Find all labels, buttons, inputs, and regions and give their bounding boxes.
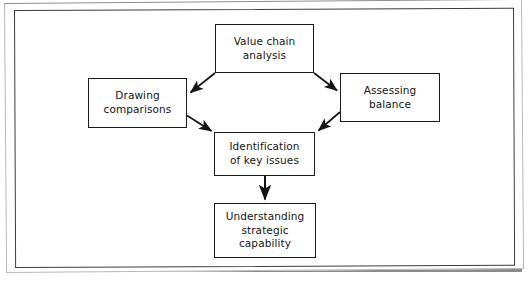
node-drawing-comparisons: Drawing comparisons xyxy=(88,78,187,128)
node-drawing-comparisons-label: Drawing comparisons xyxy=(101,89,175,117)
node-understanding-strategic-capability-label: Understanding strategic capability xyxy=(223,210,308,252)
node-identification-of-key-issues-label: Identification of key issues xyxy=(226,140,302,168)
arrow-value-chain-to-assessing xyxy=(314,73,337,91)
node-understanding-strategic-capability: Understanding strategic capability xyxy=(214,203,316,258)
node-assessing-balance: Assessing balance xyxy=(340,73,440,122)
node-value-chain-analysis: Value chain analysis xyxy=(215,24,314,73)
node-identification-of-key-issues: Identification of key issues xyxy=(214,132,315,176)
arrow-value-chain-to-drawing xyxy=(191,73,216,93)
arrow-drawing-to-identification xyxy=(187,116,212,132)
node-assessing-balance-label: Assessing balance xyxy=(361,84,420,112)
diagram-screenshot: Value chain analysis Drawing comparisons… xyxy=(0,0,528,284)
node-value-chain-analysis-label: Value chain analysis xyxy=(231,35,299,63)
arrow-assessing-to-identification xyxy=(319,112,341,131)
diagram-canvas: Value chain analysis Drawing comparisons… xyxy=(0,0,528,284)
